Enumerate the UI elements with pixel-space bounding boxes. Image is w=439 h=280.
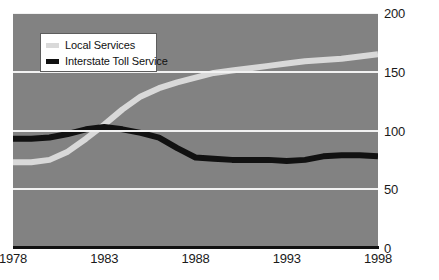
y-axis-tick-label: 50 bbox=[384, 183, 428, 196]
y-axis-tick-label: 200 bbox=[384, 7, 428, 20]
x-axis-tick-label: 1978 bbox=[0, 252, 36, 266]
x-axis-tick-label: 1998 bbox=[355, 252, 401, 266]
x-axis-tick-label: 1983 bbox=[81, 252, 127, 266]
x-axis-tick-label: 1993 bbox=[264, 252, 310, 266]
y-axis-tick-label: 100 bbox=[384, 125, 428, 138]
legend-swatch-interstate-toll-service bbox=[46, 59, 59, 64]
chart-legend: Local Services Interstate Toll Service bbox=[40, 33, 157, 72]
y-axis-tick-label: 150 bbox=[384, 66, 428, 79]
x-axis-tick-label: 1988 bbox=[173, 252, 219, 266]
legend-item-local-services: Local Services bbox=[46, 38, 156, 53]
gridline bbox=[13, 188, 378, 190]
series-line-interstate-toll-service bbox=[13, 127, 378, 161]
gridline bbox=[13, 130, 378, 132]
legend-item-interstate-toll-service: Interstate Toll Service bbox=[46, 54, 156, 69]
gridline bbox=[13, 13, 378, 14]
x-axis-line bbox=[13, 246, 379, 249]
legend-label-interstate-toll-service: Interstate Toll Service bbox=[65, 56, 168, 67]
legend-swatch-local-services bbox=[46, 43, 59, 48]
legend-label-local-services: Local Services bbox=[65, 40, 135, 51]
line-chart: 050100150200 19781983198819931998 Local … bbox=[0, 0, 439, 280]
